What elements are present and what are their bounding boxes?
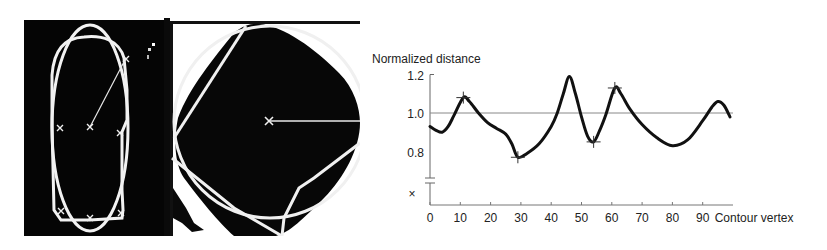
x-tick-label: 60	[605, 211, 619, 225]
x-tick-label: 90	[696, 211, 710, 225]
x-tick-label: 40	[545, 211, 559, 225]
x-tick-label: 50	[575, 211, 589, 225]
y-tick-label: 0.8	[407, 146, 424, 160]
rounded-object-figure	[164, 18, 360, 236]
y-tick-label: 1.0	[407, 107, 424, 121]
x-tick-label: 30	[514, 211, 528, 225]
x-tick-label: 70	[635, 211, 649, 225]
normalized-distance-chart: 1.21.00.8×0102030405060708090Contour ver…	[360, 40, 827, 250]
line-chart: 1.21.00.8×0102030405060708090Contour ver…	[360, 40, 827, 250]
radius-line	[90, 58, 126, 127]
x-tick-label: 0	[427, 211, 434, 225]
x-tick-label: 10	[454, 211, 468, 225]
image-panel-elongated-object	[24, 20, 164, 236]
object-silhouette	[176, 24, 360, 236]
x-tick-label: 80	[666, 211, 680, 225]
data-series-line	[430, 76, 730, 157]
x-axis-title: Contour vertex	[715, 211, 794, 225]
image-panel-rounded-object	[164, 18, 360, 236]
elongated-object-figure	[24, 20, 164, 236]
y-tick-label: 1.2	[407, 69, 424, 83]
axis-break-symbol: ×	[408, 187, 415, 201]
x-tick-label: 20	[484, 211, 498, 225]
fitted-ellipse	[52, 25, 128, 231]
